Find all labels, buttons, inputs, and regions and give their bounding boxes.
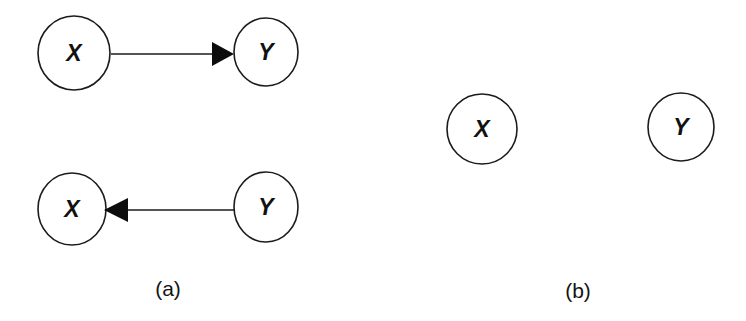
node-b-y[interactable]: Y [648, 93, 714, 161]
node-a-top-y[interactable]: Y [234, 18, 298, 86]
edge-y-to-x [104, 198, 234, 222]
edge-x-to-y [111, 42, 234, 66]
causal-graph-figure: X Y X [0, 0, 746, 321]
node-a-top-x[interactable]: X [38, 16, 110, 90]
node-label-x: X [62, 196, 81, 222]
panel-caption-a: (a) [155, 277, 181, 300]
panel-a: X Y X [38, 16, 298, 300]
node-a-bottom-x[interactable]: X [38, 173, 106, 245]
graph-b: X Y [447, 93, 714, 164]
node-label-y: Y [258, 194, 276, 220]
graph-a-top: X Y [38, 16, 298, 90]
node-label-y: Y [673, 114, 691, 140]
node-a-bottom-y[interactable]: Y [234, 172, 298, 242]
arrowhead-right-icon [212, 42, 234, 66]
node-label-y: Y [258, 39, 276, 65]
arrowhead-left-icon [104, 198, 128, 222]
node-label-x: X [472, 116, 491, 142]
node-label-x: X [64, 40, 83, 66]
node-b-x[interactable]: X [447, 94, 517, 164]
graph-a-bottom: X Y [38, 172, 298, 245]
panel-b: X Y (b) [447, 93, 714, 302]
panel-caption-b: (b) [565, 279, 591, 302]
figure-canvas: X Y X [0, 0, 746, 321]
